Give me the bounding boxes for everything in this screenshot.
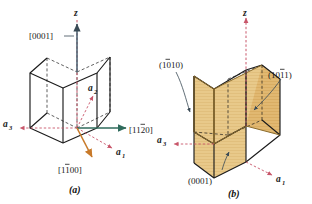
svg-text:[1120]: [1120] bbox=[129, 125, 153, 135]
svg-text:a: a bbox=[3, 119, 8, 129]
a3-axis-label-b: a 3 bbox=[157, 135, 167, 147]
crystallography-figure: z [0001] a 2 a 1 a 3 [1120] [1100] (a) bbox=[0, 0, 312, 204]
direction-1120-label: [1120] bbox=[129, 124, 153, 135]
direction-0001-label: [0001] bbox=[29, 31, 53, 41]
a1-axis-label: a 1 bbox=[116, 147, 125, 159]
svg-text:a: a bbox=[88, 83, 93, 93]
svg-text:(0001): (0001) bbox=[188, 176, 212, 186]
panel-a-solid-edges bbox=[30, 57, 110, 143]
figure-svg: z [0001] a 2 a 1 a 3 [1120] [1100] (a) bbox=[0, 0, 312, 204]
a2-axis-line bbox=[77, 96, 93, 128]
panel-b-caption: (b) bbox=[228, 188, 240, 200]
a1-axis-line-b bbox=[246, 162, 272, 175]
svg-text:[1100]: [1100] bbox=[58, 165, 82, 175]
panel-a: z [0001] a 2 a 1 a 3 [1120] [1100] (a) bbox=[3, 8, 153, 196]
svg-text:a: a bbox=[116, 147, 121, 157]
panel-a-hidden-edges bbox=[47, 57, 110, 128]
a3-axis-label-a: a 3 bbox=[3, 119, 13, 131]
svg-text:a: a bbox=[276, 174, 281, 184]
a1-axis-label-b: a 1 bbox=[276, 174, 285, 186]
panel-a-caption: (a) bbox=[69, 184, 81, 196]
svg-text:3: 3 bbox=[162, 140, 167, 147]
direction-1100-vector bbox=[77, 128, 92, 157]
svg-text:(1011): (1011) bbox=[268, 70, 292, 80]
z-axis-label-b: z bbox=[242, 8, 247, 18]
svg-text:a: a bbox=[157, 135, 162, 145]
panel-b: z (1010) (1011) (0001) a 3 a 1 (b) bbox=[157, 8, 292, 200]
plane-1010-label: (1010) bbox=[159, 59, 183, 70]
leader-1010 bbox=[176, 72, 190, 112]
svg-text:(1010): (1010) bbox=[159, 60, 183, 70]
svg-text:1: 1 bbox=[122, 152, 125, 159]
direction-1100-label: [1100] bbox=[58, 164, 82, 175]
svg-text:1: 1 bbox=[282, 179, 285, 186]
z-axis-label-a: z bbox=[73, 8, 78, 18]
svg-text:3: 3 bbox=[8, 124, 13, 131]
plane-1011-label: (1011) bbox=[268, 69, 292, 80]
plane-0001-label: (0001) bbox=[188, 176, 212, 186]
